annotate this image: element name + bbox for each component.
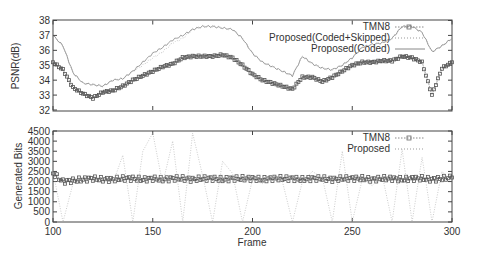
- y-tick-label: 36: [39, 45, 51, 56]
- series-marker: [129, 179, 132, 182]
- y-tick-label: 500: [33, 206, 50, 217]
- figure: 32333435363738 PSNR(dB) TMN8 Proposed(Co…: [0, 0, 477, 263]
- x-axis-label: Frame: [238, 237, 267, 248]
- series-marker: [167, 180, 170, 183]
- psnr-plot-frame: [53, 20, 452, 111]
- series-marker: [181, 175, 184, 178]
- series-line-2: [53, 26, 452, 87]
- chart-canvas: 32333435363738 PSNR(dB) TMN8 Proposed(Co…: [0, 0, 477, 263]
- series-marker: [271, 180, 274, 183]
- y-tick-label: 35: [39, 60, 51, 71]
- psnr-legend: TMN8 Proposed(Coded+Skipped) Proposed(Co…: [269, 21, 425, 54]
- bits-series: [52, 133, 454, 222]
- legend-label-proposed-bits: Proposed: [347, 143, 390, 154]
- series-marker: [301, 176, 304, 179]
- series-marker: [279, 175, 282, 178]
- legend-label-tmn8: TMN8: [363, 21, 391, 32]
- y-tick-label: 2500: [28, 166, 51, 177]
- x-tick-label: 100: [45, 226, 62, 237]
- series-marker: [293, 180, 296, 183]
- y-tick-label: 2000: [28, 176, 51, 187]
- y-tick-label: 1500: [28, 186, 51, 197]
- y-tick-label: 3500: [28, 146, 51, 157]
- x-tick-label: 300: [444, 226, 461, 237]
- x-tick-label: 150: [144, 226, 161, 237]
- y-tick-label: 3000: [28, 156, 51, 167]
- bits-legend: TMN8 Proposed: [347, 132, 425, 154]
- y-tick-label: 33: [39, 90, 51, 101]
- series-marker: [249, 180, 252, 183]
- y-tick-label: 32: [39, 105, 51, 116]
- bits-plot: 050010001500200025003000350040004500 100…: [13, 126, 461, 249]
- legend-label-proposed-coded-skipped: Proposed(Coded+Skipped): [269, 32, 390, 43]
- series-line-1: [53, 25, 452, 87]
- y-tick-label: 4000: [28, 136, 51, 147]
- x-tick-label: 250: [344, 226, 361, 237]
- psnr-x-ticks: [53, 21, 452, 111]
- y-tick-label: 38: [39, 15, 51, 26]
- series-marker: [197, 175, 200, 178]
- series-marker: [331, 181, 334, 184]
- series-marker: [263, 175, 266, 178]
- series-marker: [85, 180, 88, 183]
- y-tick-label: 4500: [28, 126, 51, 137]
- bits-y-axis-label: Generated Bits: [13, 143, 24, 210]
- series-marker: [309, 180, 312, 183]
- legend-label-tmn8-bits: TMN8: [363, 132, 391, 143]
- psnr-series: [52, 25, 454, 100]
- psnr-y-ticks: 32333435363738: [39, 15, 452, 116]
- series-marker: [137, 175, 140, 178]
- psnr-plot: 32333435363738 PSNR(dB) TMN8 Proposed(Co…: [10, 15, 454, 116]
- y-tick-label: 37: [39, 30, 51, 41]
- series-marker: [227, 180, 230, 183]
- bits-plot-frame: [53, 131, 452, 222]
- bits-x-ticks: 100150200250300: [45, 131, 461, 237]
- y-tick-label: 34: [39, 75, 51, 86]
- series-marker: [139, 179, 142, 182]
- series-marker: [107, 181, 110, 184]
- x-tick-label: 200: [244, 226, 261, 237]
- psnr-y-axis-label: PSNR(dB): [10, 43, 21, 90]
- legend-label-proposed-coded: Proposed(Coded): [311, 43, 390, 54]
- series-marker: [77, 176, 80, 179]
- y-tick-label: 1000: [28, 196, 51, 207]
